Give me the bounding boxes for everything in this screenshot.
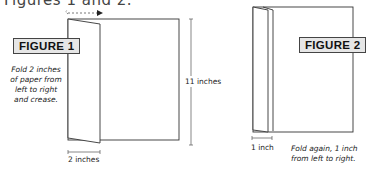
instruction-line: Fold again, 1 inch xyxy=(291,144,369,154)
instruction-line: Fold 2 inches xyxy=(6,65,66,75)
figure1-label: FIGURE 1 xyxy=(13,38,80,54)
instruction-line: from left to right. xyxy=(291,154,369,164)
fold-direction-arrow xyxy=(66,10,103,16)
figure2-width-dimension xyxy=(252,136,272,140)
instruction-line: left to right xyxy=(6,85,66,95)
figure2-width-label: 1 inch xyxy=(251,143,274,152)
instruction-line: of paper from xyxy=(6,75,66,85)
figure1-paper xyxy=(68,19,179,143)
instruction-line: and crease. xyxy=(6,95,66,105)
figure1-width-dimension xyxy=(68,150,100,154)
figure2-label: FIGURE 2 xyxy=(299,37,366,53)
figure1-instructions: Fold 2 inches of paper from left to righ… xyxy=(6,65,66,105)
figure1-height-label: 11 inches xyxy=(185,76,221,87)
figure2-instructions: Fold again, 1 inch from left to right. xyxy=(291,144,369,164)
figure2-paper xyxy=(253,7,353,132)
figure1-width-label: 2 inches xyxy=(68,155,99,164)
